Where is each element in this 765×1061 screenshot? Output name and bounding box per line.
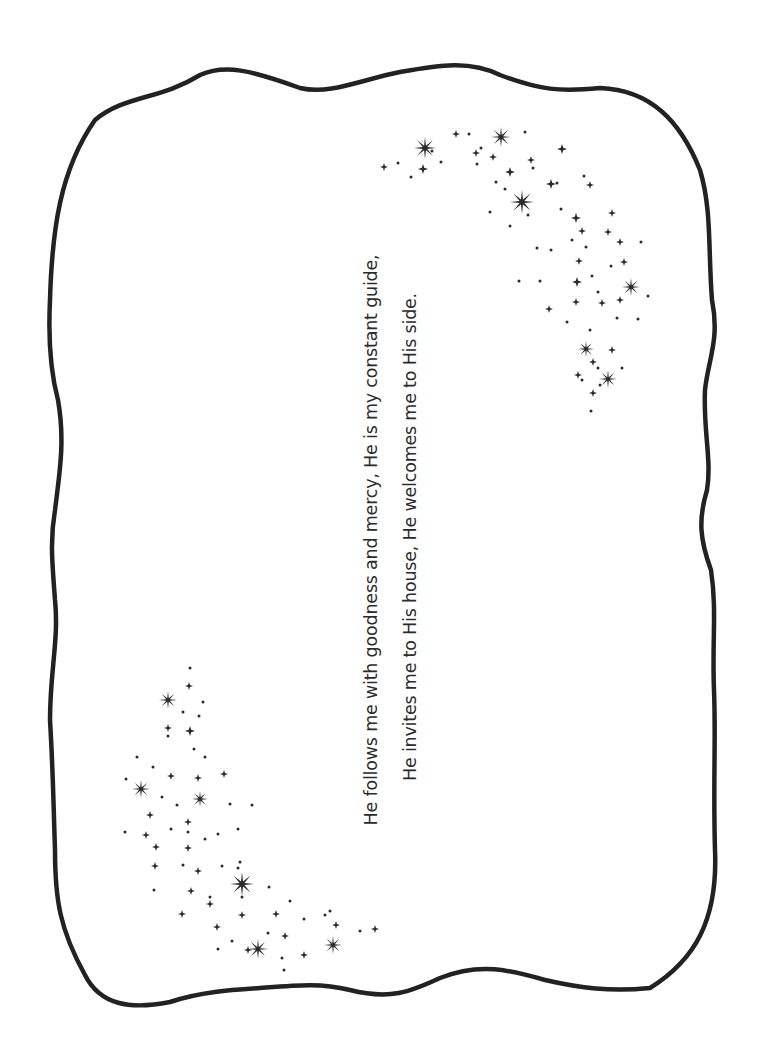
star-small-icon (546, 179, 556, 189)
star-small-icon (178, 910, 186, 918)
star-dot-icon (476, 163, 479, 166)
star-dot-icon (221, 865, 224, 868)
star-large-icon (324, 936, 342, 954)
star-small-icon (616, 238, 624, 246)
verse-line-2: He invites me to His house, He welcomes … (400, 293, 420, 781)
star-small-icon (332, 921, 340, 929)
star-large-icon (510, 190, 534, 214)
star-small-icon (146, 811, 154, 819)
star-dot-icon (532, 167, 535, 170)
star-small-icon (608, 346, 616, 354)
star-dot-icon (616, 317, 619, 320)
star-small-icon (604, 228, 612, 236)
star-dot-icon (550, 249, 553, 252)
star-small-icon (187, 887, 195, 895)
star-small-icon (571, 213, 581, 223)
star-dot-icon (397, 162, 400, 165)
star-small-icon (167, 772, 175, 780)
star-large-icon (248, 939, 268, 959)
star-dot-icon (217, 948, 220, 951)
star-dot-icon (637, 318, 640, 321)
star-small-icon (572, 298, 580, 306)
star-small-icon (164, 724, 172, 732)
star-dot-icon (556, 182, 559, 185)
star-dot-icon (583, 175, 586, 178)
star-dot-icon (480, 147, 483, 150)
star-small-icon (586, 181, 594, 189)
star-dot-icon (536, 247, 539, 250)
star-small-icon (244, 946, 252, 954)
star-dot-icon (251, 804, 254, 807)
star-dot-icon (193, 748, 196, 751)
star-small-icon (527, 156, 535, 164)
star-dot-icon (170, 828, 173, 831)
star-small-icon (281, 932, 289, 940)
star-dot-icon (182, 711, 185, 714)
star-dot-icon (202, 701, 205, 704)
star-large-icon (414, 137, 436, 159)
star-small-icon (185, 726, 195, 736)
star-small-icon (572, 277, 582, 287)
star-dot-icon (204, 756, 207, 759)
star-dot-icon (440, 161, 443, 164)
star-small-icon (608, 209, 616, 217)
star-dot-icon (560, 208, 563, 211)
star-dot-icon (182, 864, 185, 867)
star-dot-icon (527, 214, 530, 217)
star-dot-icon (571, 239, 574, 242)
star-dot-icon (410, 176, 413, 179)
star-large-icon (159, 691, 177, 709)
star-dot-icon (209, 896, 212, 899)
star-dot-icon (431, 150, 434, 153)
star-dot-icon (281, 957, 284, 960)
star-small-icon (589, 389, 597, 397)
star-dot-icon (566, 321, 569, 324)
verse-line-1: He follows me with goodness and mercy, H… (361, 255, 381, 826)
star-large-icon (491, 127, 511, 147)
star-dot-icon (303, 918, 306, 921)
star-small-icon (194, 774, 202, 782)
star-cluster-top-right (380, 127, 650, 413)
star-dot-icon (585, 246, 588, 249)
star-dot-icon (621, 367, 624, 370)
star-dot-icon (597, 367, 600, 370)
star-dot-icon (518, 280, 521, 283)
star-large-icon (132, 780, 150, 798)
star-dot-icon (599, 384, 602, 387)
star-small-icon (371, 925, 379, 933)
star-small-icon (142, 831, 150, 839)
star-small-icon (238, 911, 246, 919)
star-small-icon (272, 910, 280, 918)
star-small-icon (151, 862, 159, 870)
star-dot-icon (524, 131, 527, 134)
star-small-icon (578, 227, 586, 235)
star-dot-icon (204, 838, 207, 841)
star-dot-icon (610, 265, 613, 268)
star-small-icon (557, 144, 567, 154)
star-small-icon (620, 258, 628, 266)
coloring-page: He follows me with goodness and mercy, H… (0, 0, 765, 1061)
star-dot-icon (189, 667, 192, 670)
star-small-icon (300, 951, 308, 959)
star-small-icon (380, 163, 388, 171)
star-dot-icon (468, 133, 471, 136)
star-small-icon (418, 164, 428, 174)
star-small-icon (505, 167, 515, 177)
star-dot-icon (217, 833, 220, 836)
star-small-icon (545, 305, 553, 313)
star-dot-icon (539, 280, 542, 283)
star-small-icon (574, 371, 582, 379)
star-dot-icon (329, 910, 332, 913)
star-dot-icon (153, 889, 156, 892)
star-small-icon (152, 843, 160, 851)
star-small-icon (206, 900, 214, 908)
star-dot-icon (489, 211, 492, 214)
star-dot-icon (509, 225, 512, 228)
star-dot-icon (289, 900, 292, 903)
star-dot-icon (198, 715, 201, 718)
star-dot-icon (268, 886, 271, 889)
star-small-icon (489, 153, 497, 161)
star-dot-icon (640, 241, 643, 244)
star-small-icon (575, 257, 583, 265)
star-small-icon (472, 149, 480, 157)
